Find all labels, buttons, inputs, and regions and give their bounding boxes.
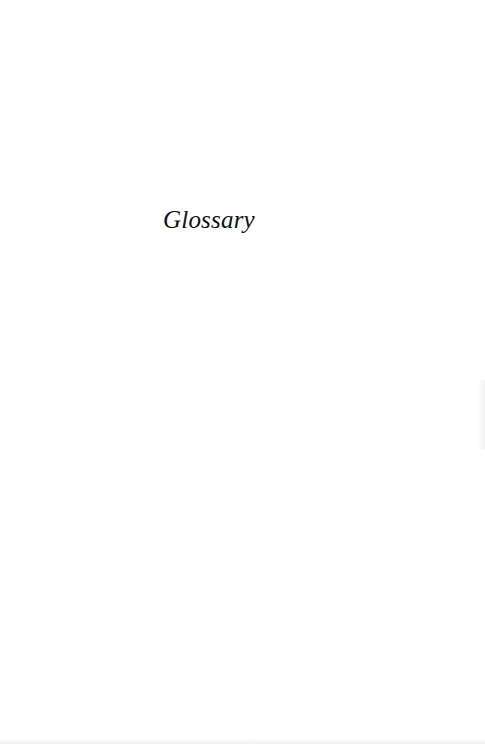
document-page: Glossary [0, 0, 485, 744]
scan-edge-shadow-bottom [0, 738, 485, 744]
page-title: Glossary [163, 205, 255, 235]
scan-edge-shadow-right [477, 380, 485, 450]
